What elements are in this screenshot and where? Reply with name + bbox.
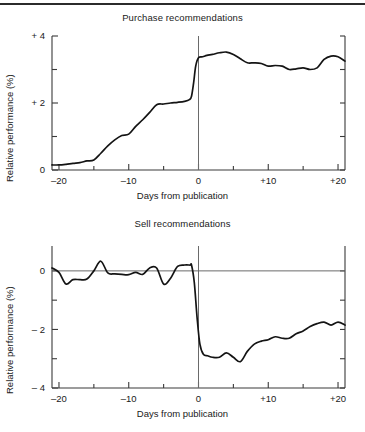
- plot-area-purchase: 0+ 2+ 4–20–100+10+20: [0, 10, 365, 216]
- x-tick-label: +10: [260, 393, 276, 404]
- y-tick-label: + 4: [32, 30, 45, 41]
- x-axis-label-sell: Days from publication: [0, 408, 365, 419]
- x-tick-label: –20: [51, 393, 67, 404]
- x-tick-label: –10: [121, 175, 137, 186]
- x-tick-label: –10: [121, 393, 137, 404]
- y-tick-label: – 2: [32, 324, 45, 335]
- x-tick-label: +20: [330, 393, 346, 404]
- top-horizontal-rule: [0, 3, 365, 5]
- x-axis-label-purchase: Days from publication: [0, 190, 365, 201]
- figure-container: Purchase recommendations Relative perfor…: [0, 0, 365, 432]
- x-tick-label: +20: [330, 175, 346, 186]
- chart-panel-sell: Sell recommendations Relative performanc…: [0, 216, 365, 432]
- y-tick-label: 0: [40, 164, 45, 175]
- x-tick-label: –20: [51, 175, 67, 186]
- x-tick-label: 0: [196, 393, 201, 404]
- chart-panel-purchase: Purchase recommendations Relative perfor…: [0, 10, 365, 216]
- plot-area-sell: 0– 2– 4–20–100+10+20: [0, 216, 365, 432]
- y-tick-label: 0: [40, 265, 45, 276]
- x-tick-label: +10: [260, 175, 276, 186]
- y-tick-label: – 4: [32, 382, 45, 393]
- y-tick-label: + 2: [32, 97, 45, 108]
- x-tick-label: 0: [196, 175, 201, 186]
